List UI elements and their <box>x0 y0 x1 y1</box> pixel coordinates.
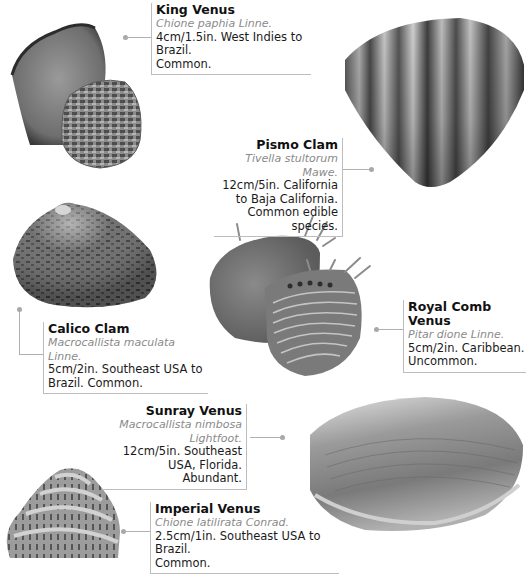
pismo-clam-scientific: Tivella stultorum Mawe. <box>214 152 338 179</box>
calico-clam-scientific: Macrocallista maculata Linne. <box>48 336 208 363</box>
sunray-venus-desc-1: 12cm/5in. Southeast <box>102 445 242 459</box>
calico-clam-label: Calico Clam Macrocallista maculata Linne… <box>43 322 208 394</box>
calico-clam-connector-vertical <box>19 312 20 355</box>
imperial-venus-desc-2: Common. <box>155 557 339 571</box>
imperial-venus-scientific: Chione latilirata Conrad. <box>155 516 339 530</box>
calico-clam-name: Calico Clam <box>48 322 208 336</box>
royal-comb-venus-connector <box>377 329 403 330</box>
pismo-clam-connector <box>343 169 369 170</box>
sunray-venus-label: Sunray Venus Macrocallista nimbosa Light… <box>102 404 247 490</box>
pismo-clam-label: Pismo Clam Tivella stultorum Mawe. 12cm/… <box>214 138 343 237</box>
royal-comb-venus-name: Royal Comb Venus <box>408 300 526 328</box>
king-venus-shell-image <box>0 10 145 170</box>
imperial-venus-connector <box>124 531 150 532</box>
king-venus-scientific: Chione paphia Linne. <box>156 17 311 31</box>
pismo-clam-name: Pismo Clam <box>214 138 338 152</box>
pismo-clam-desc-1: 12cm/5in. California to Baja California. <box>214 179 338 206</box>
pismo-clam-pointer-dot <box>369 167 374 172</box>
calico-clam-shell-image <box>5 190 165 310</box>
calico-clam-connector <box>19 354 43 355</box>
royal-comb-venus-label: Royal Comb Venus Pitar dione Linne. 5cm/… <box>403 300 526 373</box>
sunray-venus-name: Sunray Venus <box>102 404 242 418</box>
royal-comb-venus-desc-1: 5cm/2in. Caribbean. <box>408 342 526 356</box>
sunray-venus-connector <box>250 437 280 438</box>
calico-clam-desc-1: 5cm/2in. Southeast USA to <box>48 363 208 377</box>
sunray-venus-scientific: Macrocallista nimbosa Lightfoot. <box>102 418 242 445</box>
pismo-clam-desc-2: Common edible species. <box>214 206 338 233</box>
sunray-venus-pointer-dot <box>280 435 285 440</box>
king-venus-desc-1: 4cm/1.5in. West Indies to Brazil. <box>156 31 311 58</box>
king-venus-name: King Venus <box>156 3 311 17</box>
king-venus-connector <box>126 37 151 38</box>
sunray-venus-desc-2: USA, Florida. <box>102 459 242 473</box>
imperial-venus-desc-1: 2.5cm/1in. Southeast USA to Brazil. <box>155 530 339 557</box>
pismo-clam-shell-image <box>340 10 524 190</box>
royal-comb-venus-desc-2: Uncommon. <box>408 355 526 369</box>
sunray-venus-desc-3: Abundant. <box>102 472 242 486</box>
imperial-venus-name: Imperial Venus <box>155 502 339 516</box>
royal-comb-venus-scientific: Pitar dione Linne. <box>408 328 526 342</box>
imperial-venus-label: Imperial Venus Chione latilirata Conrad.… <box>150 502 339 574</box>
king-venus-desc-2: Common. <box>156 58 311 72</box>
king-venus-label: King Venus Chione paphia Linne. 4cm/1.5i… <box>151 3 311 75</box>
calico-clam-desc-2: Brazil. Common. <box>48 377 208 391</box>
